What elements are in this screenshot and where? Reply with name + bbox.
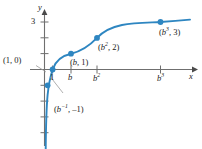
point-label-b-1: (b, 1) — [70, 58, 88, 67]
x-tick-label-1: 1 — [50, 73, 54, 82]
point-label-binv-neg1-exponent: −1 — [61, 103, 68, 109]
point-label-binv-neg1: (b−1, –1) — [54, 104, 83, 113]
x-tick-label-b: b — [68, 73, 72, 82]
y-tick-label-3: 3 — [31, 17, 35, 26]
point-label-b3-3: (b3, 3) — [159, 27, 180, 36]
logarithmic-function-figure: y x 3 1 b b2 b3 (1, 0) (b, 1) (b2, 2) (b… — [0, 0, 202, 149]
x-tick-label-b2: b2 — [93, 73, 100, 82]
point-label-origin: (1, 0) — [3, 56, 21, 65]
x-tick-label-b2-exponent: 2 — [97, 72, 100, 78]
point-label-binv-neg1-close: , –1) — [68, 104, 84, 114]
x-tick-label-b3-exponent: 3 — [161, 72, 164, 78]
x-tick-label-b3: b3 — [157, 73, 164, 82]
log-curve — [46, 20, 190, 149]
x-axis-label: x — [189, 72, 193, 81]
data-point-b2-2[interactable] — [94, 35, 100, 41]
data-point-b3-3[interactable] — [158, 19, 164, 25]
point-label-b2-2-close: , 2) — [108, 42, 119, 52]
data-point-b-1[interactable] — [68, 51, 74, 57]
point-label-b3-3-close: , 3) — [169, 27, 180, 37]
point-label-b-1-close: , 1) — [77, 57, 88, 67]
point-label-b2-2: (b2, 2) — [98, 42, 119, 51]
data-point-binv-neg1[interactable] — [45, 82, 51, 88]
x-tick-label-b-base: b — [68, 72, 72, 82]
y-axis-label: y — [38, 3, 42, 12]
y-axis-arrowhead — [42, 9, 48, 15]
